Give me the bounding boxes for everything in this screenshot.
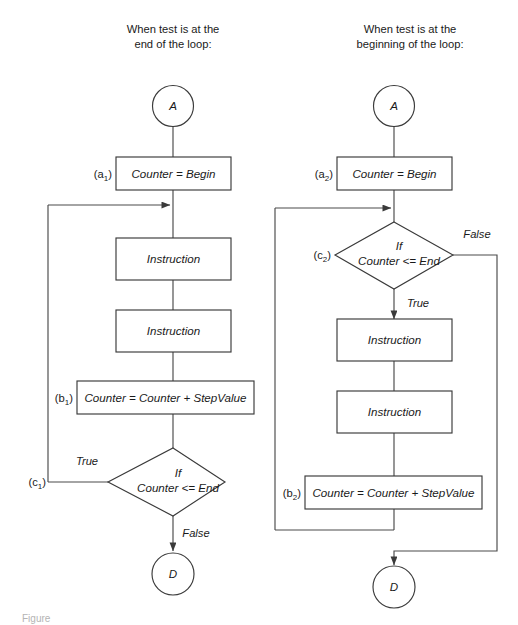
left-false-label: False <box>182 527 209 539</box>
left-panel-heading-line1: When test is at the <box>127 23 220 35</box>
left-decision-label-line2: Counter <= End <box>137 481 219 494</box>
left-instruction-label-1: Instruction <box>147 252 201 265</box>
left-true-label: True <box>76 455 98 467</box>
right-start-label: A <box>389 99 398 112</box>
right-end-label: D <box>390 580 398 593</box>
right-panel-heading-line1: When test is at the <box>364 23 457 35</box>
right-true-label: True <box>407 297 429 309</box>
right-step-label: Counter = Counter + StepValue <box>313 486 476 499</box>
right-false-label: False <box>463 228 490 240</box>
left-panel-heading-line2: end of the loop: <box>134 38 211 50</box>
left-tag-b: (b1) <box>55 392 73 407</box>
left-tag-a: (a1) <box>94 168 112 183</box>
flowchart-canvas: When test is at the end of the loop: Whe… <box>0 0 518 625</box>
left-instruction-label-2: Instruction <box>147 324 201 337</box>
right-panel-heading-line2: beginning of the loop: <box>357 38 464 50</box>
left-start-label: A <box>168 99 177 112</box>
left-end-label: D <box>169 567 177 580</box>
flowchart-figure: When test is at the end of the loop: Whe… <box>0 0 518 625</box>
left-tag-c: (c1) <box>28 476 46 491</box>
right-init-label: Counter = Begin <box>352 167 436 180</box>
left-step-label: Counter = Counter + StepValue <box>85 391 248 404</box>
right-instruction-label-2: Instruction <box>368 405 422 418</box>
left-init-label: Counter = Begin <box>131 167 215 180</box>
right-tag-a: (a2) <box>315 168 333 183</box>
right-instruction-label-1: Instruction <box>368 333 422 346</box>
right-tag-c: (c2) <box>313 249 331 264</box>
right-decision-label-line2: Counter <= End <box>358 254 440 267</box>
figure-caption: Figure <box>22 613 51 624</box>
right-tag-b: (b2) <box>283 487 301 502</box>
